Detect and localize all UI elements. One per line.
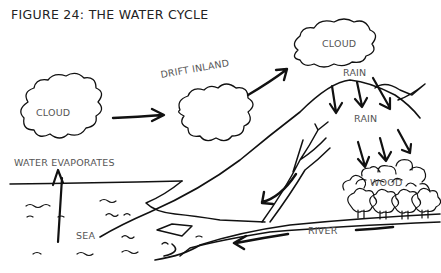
river-bank-upper — [155, 214, 440, 260]
label-river: RIVER — [308, 225, 338, 236]
mountain-outline — [100, 80, 420, 237]
label-rain-middle: RAIN — [354, 113, 377, 124]
rain-arrows-lower-icon — [358, 130, 411, 167]
label-rain-top: RAIN — [343, 67, 366, 78]
label-wood: WOOD — [370, 177, 402, 188]
cloud-middle-icon — [179, 84, 253, 141]
water-cycle-drawing — [0, 0, 441, 273]
wood-trees-icon — [343, 160, 441, 219]
river-flow-line — [356, 227, 393, 230]
label-water-evaporates: WATER EVAPORATES — [14, 157, 115, 168]
horizon-line — [10, 181, 182, 184]
label-cloud-right: CLOUD — [322, 38, 356, 49]
drift-arrow-icon — [113, 109, 164, 121]
label-sea: SEA — [76, 230, 95, 241]
river-mouth — [164, 244, 176, 256]
evaporate-arrow-icon — [53, 170, 63, 242]
shoreline — [146, 181, 265, 222]
cloud-left-icon — [21, 73, 102, 138]
stream-branches — [262, 122, 328, 222]
inland-arrow-icon — [248, 69, 287, 95]
label-cloud-left: CLOUD — [36, 107, 70, 118]
rock-shape — [157, 224, 192, 236]
